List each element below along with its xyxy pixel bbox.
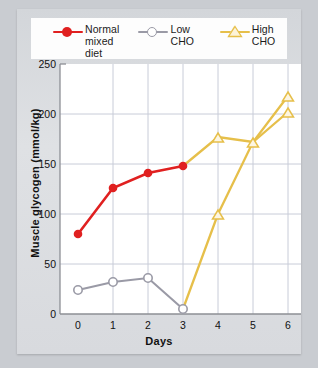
plot-background [60,64,301,314]
chart-canvas [17,9,301,354]
chart-plot-area: Muscle glycogen (mmol/kg) Days 0 50 100 … [17,9,301,354]
data-point-normal-d1 [109,184,118,193]
figure-panel: Normalmixed diet Low CHO High CHO Muscle… [17,9,301,354]
data-point-low-cho-d3 [179,305,187,313]
data-point-normal-d3 [179,162,188,171]
data-point-normal-d0 [74,230,83,239]
data-point-low-cho-d1 [109,278,117,286]
data-point-normal-d2 [144,169,153,178]
data-point-low-cho-d0 [74,286,82,294]
data-point-low-cho-d2 [144,274,152,282]
